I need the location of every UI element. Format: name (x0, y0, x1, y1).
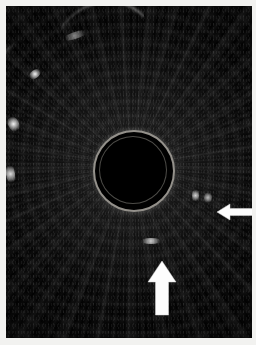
probe-lumen-core (101, 138, 165, 202)
ultrasound-scan-frame (6, 6, 252, 338)
ultrasound-figure (0, 0, 256, 345)
